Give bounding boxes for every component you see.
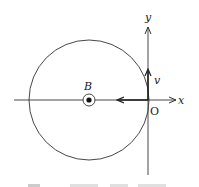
origin-label: O	[150, 105, 159, 118]
field-label: B	[83, 80, 92, 93]
y-axis-label: y	[144, 11, 152, 24]
magnetic-field-out-icon	[83, 94, 95, 106]
velocity-label: v	[154, 74, 161, 87]
diagram-canvas: B y x O v	[0, 0, 199, 187]
x-axis-label: x	[178, 94, 185, 107]
caption-strip	[28, 184, 166, 187]
